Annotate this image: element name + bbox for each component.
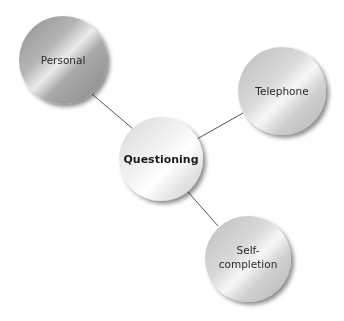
- node-self-completion[interactable]: Self- completion: [205, 216, 291, 302]
- edge-questioning-personal: [92, 94, 133, 129]
- hub-spoke-diagram: Personal Telephone Questioning Self- com…: [0, 0, 344, 321]
- edge-questioning-telephone: [197, 113, 243, 139]
- node-telephone[interactable]: Telephone: [238, 47, 326, 135]
- node-telephone-label: Telephone: [254, 85, 308, 97]
- node-personal[interactable]: Personal: [19, 16, 107, 104]
- node-personal-label: Personal: [41, 54, 86, 66]
- node-questioning-label: Questioning: [123, 153, 198, 166]
- node-self-completion-label-line2: completion: [219, 258, 278, 270]
- node-questioning[interactable]: Questioning: [119, 117, 203, 201]
- node-self-completion-label-line1: Self-: [237, 244, 260, 256]
- edge-questioning-self-completion: [188, 192, 218, 226]
